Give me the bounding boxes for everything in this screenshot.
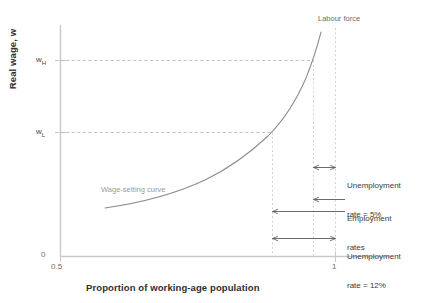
x-tick-label-left: 0.5 bbox=[51, 262, 62, 272]
y-tick-label-w-low: wL bbox=[36, 127, 45, 139]
wage-setting-curve-label: Wage-setting curve bbox=[101, 185, 165, 194]
annotation-unemployment-12-line2: rate = 12% bbox=[347, 281, 401, 291]
y-axis-title: Real wage, w bbox=[7, 29, 18, 89]
x-tick-label-right: 1 bbox=[332, 262, 336, 272]
wage-setting-curve bbox=[105, 32, 321, 208]
annotation-unemployment-5-line1: Unemployment bbox=[347, 181, 401, 191]
annotation-employment-rates-line1: Employment bbox=[347, 214, 391, 224]
annotation-unemployment-12-line1: Unemployment bbox=[347, 252, 401, 262]
annotation-unemployment-12: Unemployment rate = 12% bbox=[347, 232, 401, 303]
y-axis-title-wrap: Real wage, w bbox=[2, 4, 16, 114]
y-tick-label-origin: 0 bbox=[41, 250, 45, 260]
labour-force-label: Labour force bbox=[318, 14, 360, 23]
wage-setting-curve-chart: Real wage, w wH wL 0 0.5 1 Proportion of… bbox=[0, 0, 424, 303]
x-axis-title: Proportion of working-age population bbox=[86, 282, 260, 294]
y-tick-label-w-high: wH bbox=[36, 55, 46, 67]
